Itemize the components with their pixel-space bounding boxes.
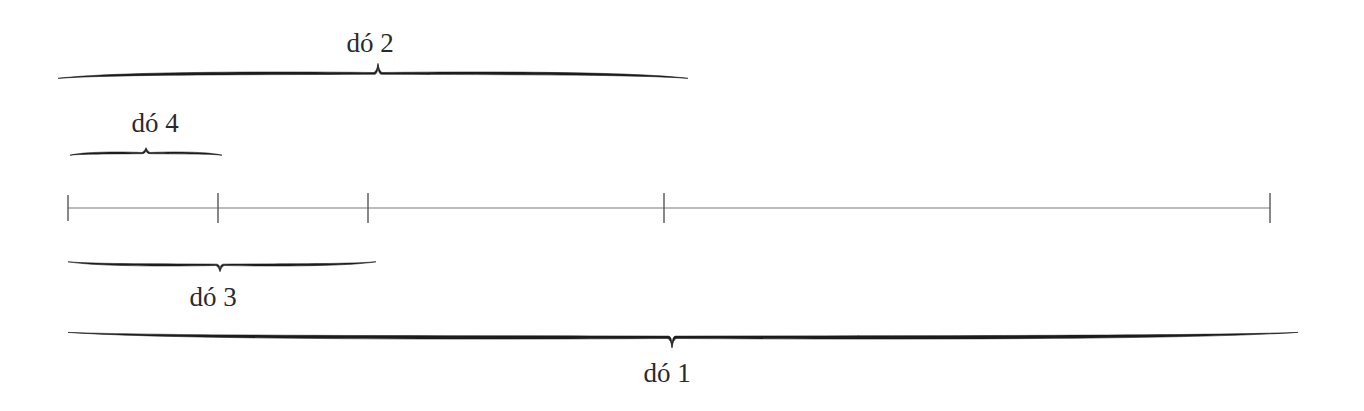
brace-do3 xyxy=(68,262,376,272)
label-do3: dó 3 xyxy=(189,282,236,312)
label-do1: dó 1 xyxy=(643,358,690,388)
brace-do4 xyxy=(70,148,222,156)
label-do4: dó 4 xyxy=(131,108,179,138)
brace-do2 xyxy=(58,63,688,78)
braces-group xyxy=(58,63,1298,348)
interval-brace-diagram: dó 2 dó 4 dó 3 dó 1 xyxy=(0,0,1364,411)
brace-do1 xyxy=(68,332,1298,348)
label-do2: dó 2 xyxy=(346,28,393,58)
